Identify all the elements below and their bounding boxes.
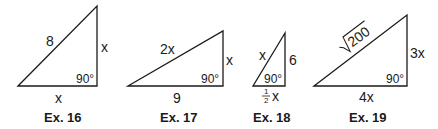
hypotenuse-label: x [259,47,266,63]
vertical-leg-label: 6 [289,52,297,68]
vertical-leg-label: x [226,52,233,68]
hypotenuse-label: 2x [160,41,175,57]
triangle-ex18: x 6 1 2 x 90° Ex. 18 [253,33,297,125]
triangles-diagram: 8 x x 90° Ex. 16 2x x 9 90° Ex. 17 x 6 1… [0,0,438,129]
vertical-leg-label: x [101,39,108,55]
caption: Ex. 18 [253,110,291,125]
caption: Ex. 19 [349,110,387,125]
caption: Ex. 17 [160,110,198,125]
right-angle-label: 90° [76,72,94,86]
vertical-leg-label: 3x [410,45,425,61]
horizontal-leg-label: 4x [359,89,374,105]
triangle-ex17: 2x x 9 90° Ex. 17 [128,31,233,125]
horizontal-leg-label: 9 [173,90,181,106]
fraction-numerator: 1 [264,87,269,96]
triangle-ex19: 200 3x 4x 90° Ex. 19 [314,15,425,125]
horizontal-leg-label: 1 2 x [262,87,279,105]
caption: Ex. 16 [44,110,82,125]
right-angle-label: 90° [264,72,282,86]
fraction-denominator: 2 [264,96,269,105]
triangle-ex16: 8 x x 90° Ex. 16 [18,6,108,125]
radicand: 200 [344,23,372,50]
hypotenuse-label: 200 [336,21,375,56]
right-angle-label: 90° [201,72,219,86]
right-angle-label: 90° [386,72,404,86]
hypotenuse-label: 8 [46,33,54,49]
horizontal-leg-label: x [55,90,62,106]
fraction-variable: x [272,88,279,104]
